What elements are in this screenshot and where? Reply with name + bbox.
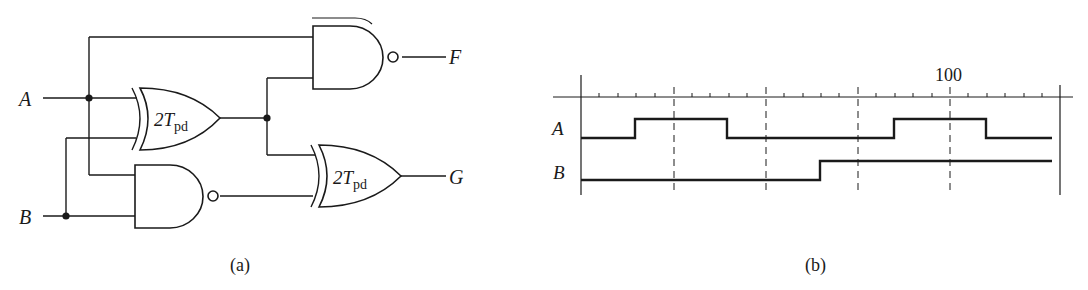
caption-a: (a)	[230, 255, 250, 276]
signal-label-a: A	[550, 118, 564, 139]
figure-canvas: A B F G 2Tpd 2Tpd 100 A B (a) (b)	[0, 0, 1088, 290]
minor-ticks	[599, 93, 1042, 97]
signal-a-waveform	[581, 119, 1052, 138]
time-axis-label-100: 100	[935, 65, 962, 85]
timing-diagram	[553, 75, 1073, 195]
junction-b	[62, 212, 69, 219]
junction-a	[85, 94, 92, 101]
xor2-delay-label: 2Tpd	[333, 167, 367, 192]
xor1-delay-label: 2Tpd	[154, 109, 188, 134]
output-label-f: F	[448, 46, 462, 68]
caption-b: (b)	[805, 255, 826, 276]
output-label-g: G	[449, 166, 464, 188]
input-label-a: A	[17, 88, 32, 110]
signal-label-b: B	[553, 162, 565, 183]
signal-b-waveform	[581, 161, 1052, 180]
input-label-b: B	[19, 206, 31, 228]
nand-gate-1	[135, 165, 218, 228]
circuit-diagram	[43, 18, 446, 228]
nand2-artifact-lines	[312, 18, 372, 24]
nand-gate-2	[312, 18, 398, 89]
junction-xor1	[263, 114, 270, 121]
xor-gate-2	[311, 145, 401, 207]
